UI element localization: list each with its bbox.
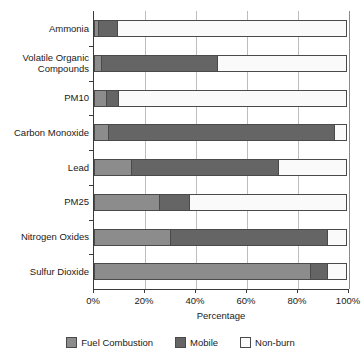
- bar-row: [94, 185, 349, 220]
- y-axis-label: Ammonia: [0, 23, 89, 35]
- y-axis-label: Nitrogen Oxides: [0, 231, 89, 243]
- y-axis-label-line: Compounds: [0, 63, 89, 75]
- legend-label: Mobile: [190, 337, 218, 348]
- legend-label: Non-burn: [255, 337, 295, 348]
- bar-segment: [327, 263, 347, 280]
- y-axis-label-line: PM25: [0, 196, 89, 208]
- bar-segment: [217, 55, 347, 72]
- y-axis-label: PM10: [0, 92, 89, 104]
- bar-rows: [94, 11, 349, 289]
- bar-segment: [94, 263, 311, 280]
- bar-segment: [117, 20, 347, 37]
- y-axis-category-labels: AmmoniaVolatile OrganicCompoundsPM10Carb…: [0, 11, 89, 289]
- bar-segment: [189, 194, 347, 211]
- bar-segment: [159, 194, 190, 211]
- stacked-bar: [94, 229, 349, 246]
- x-axis-tick-label: 80%: [287, 295, 306, 307]
- bar-row: [94, 46, 349, 81]
- stacked-bar: [94, 124, 349, 141]
- bar-segment: [94, 194, 160, 211]
- x-axis-tick: [348, 289, 349, 293]
- bar-row: [94, 11, 349, 46]
- y-axis-label-line: Volatile Organic: [0, 52, 89, 64]
- legend-swatch-icon: [240, 337, 251, 348]
- y-axis-label: PM25: [0, 196, 89, 208]
- y-axis-label: Sulfur Dioxide: [0, 266, 89, 278]
- legend-item[interactable]: Mobile: [175, 337, 218, 348]
- bar-row: [94, 220, 349, 255]
- y-axis-label-line: Nitrogen Oxides: [0, 231, 89, 243]
- bar-segment: [118, 90, 348, 107]
- stacked-bar: [94, 159, 349, 176]
- y-axis-label-line: Carbon Monoxide: [0, 127, 89, 139]
- y-axis-label: Lead: [0, 162, 89, 174]
- plot-area: [93, 11, 349, 289]
- x-axis-tick-labels: 0%20%40%60%80%100%: [0, 295, 361, 309]
- x-axis-tick: [93, 289, 94, 293]
- stacked-bar: [94, 55, 349, 72]
- x-axis-tick-label: 40%: [185, 295, 204, 307]
- x-axis-title: Percentage: [93, 310, 349, 321]
- bar-row: [94, 254, 349, 289]
- x-axis-tick-label: 20%: [134, 295, 153, 307]
- bar-segment: [310, 263, 328, 280]
- y-axis-label-line: PM10: [0, 92, 89, 104]
- stacked-bar: [94, 194, 349, 211]
- x-axis-tick: [246, 289, 247, 293]
- x-axis-ticks: [93, 289, 349, 293]
- x-axis-tick: [297, 289, 298, 293]
- bar-segment: [170, 229, 328, 246]
- stacked-bar-chart: AmmoniaVolatile OrganicCompoundsPM10Carb…: [0, 0, 361, 355]
- legend-swatch-icon: [175, 337, 186, 348]
- stacked-bar: [94, 90, 349, 107]
- x-axis-tick: [195, 289, 196, 293]
- bar-segment: [94, 229, 171, 246]
- bar-segment: [278, 159, 347, 176]
- y-axis-label-line: Ammonia: [0, 23, 89, 35]
- y-axis-label-line: Sulfur Dioxide: [0, 266, 89, 278]
- x-axis-tick-label: 100%: [336, 295, 360, 307]
- y-axis-label: Volatile OrganicCompounds: [0, 52, 89, 75]
- bar-segment: [101, 55, 218, 72]
- legend-label: Fuel Combustion: [81, 337, 153, 348]
- y-axis-label: Carbon Monoxide: [0, 127, 89, 139]
- stacked-bar: [94, 263, 349, 280]
- bar-segment: [108, 124, 335, 141]
- legend-item[interactable]: Non-burn: [240, 337, 295, 348]
- bar-segment: [94, 124, 109, 141]
- stacked-bar: [94, 20, 349, 37]
- chart-legend: Fuel CombustionMobileNon-burn: [0, 334, 361, 350]
- x-axis-tick: [144, 289, 145, 293]
- x-axis-tick-label: 0%: [86, 295, 100, 307]
- bar-row: [94, 150, 349, 185]
- bar-row: [94, 115, 349, 150]
- x-axis-tick-label: 60%: [236, 295, 255, 307]
- gridline-100: [349, 11, 350, 289]
- bar-segment: [334, 124, 347, 141]
- bar-row: [94, 81, 349, 116]
- legend-item[interactable]: Fuel Combustion: [66, 337, 153, 348]
- bar-segment: [327, 229, 347, 246]
- legend-swatch-icon: [66, 337, 77, 348]
- bar-segment: [98, 20, 118, 37]
- bar-segment: [131, 159, 279, 176]
- bar-segment: [94, 159, 132, 176]
- y-axis-label-line: Lead: [0, 162, 89, 174]
